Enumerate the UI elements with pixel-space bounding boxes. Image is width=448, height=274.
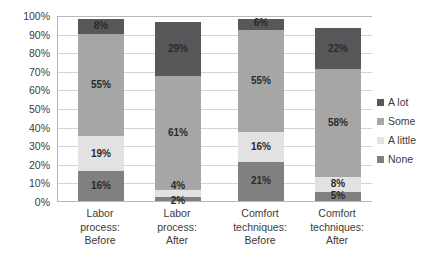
plot-area: 16%19%55%8%2%4%61%29%21%16%55%6%5%8%58%2… <box>57 16 372 202</box>
bar-segment-value-label: 29% <box>168 44 188 54</box>
legend-item-label: None <box>388 154 413 165</box>
bar-segment-value-label: 16% <box>91 181 111 191</box>
y-axis: 100%90%80%70%60%50%40%30%20%10%0% <box>2 16 54 202</box>
bar-group: 16%19%55%8%2%4%61%29%21%16%55%6%5%8%58%2… <box>58 16 372 201</box>
category-label-line: techniques: <box>223 221 297 235</box>
bar-segment: 6% <box>238 19 284 30</box>
bar-segment: 21% <box>238 162 284 201</box>
legend-swatch-icon <box>377 99 384 106</box>
bar-stack: 2%4%61%29% <box>155 15 201 201</box>
bar-segment-value-label: 55% <box>91 80 111 90</box>
y-axis-tick-label: 70% <box>29 67 50 77</box>
bar-segment: 16% <box>78 171 124 201</box>
bar-segment: 55% <box>238 30 284 132</box>
x-axis-category-labels: Laborprocess:BeforeLaborprocess:AfterCom… <box>57 207 372 269</box>
category-label-line: techniques: <box>300 221 374 235</box>
bar-segment: 19% <box>78 136 124 171</box>
bar-segment: 29% <box>155 22 201 76</box>
y-axis-tick-label: 10% <box>29 178 50 188</box>
legend-item-label: Some <box>388 116 415 127</box>
bar-segment-value-label: 5% <box>331 191 345 201</box>
bar-segment: 16% <box>238 132 284 162</box>
bar-segment-value-label: 61% <box>168 128 188 138</box>
chart-legend: A lotSomeA littleNone <box>377 93 445 169</box>
legend-item[interactable]: A little <box>377 131 445 150</box>
category-label-line: Comfort <box>223 207 297 221</box>
bar-segment-value-label: 16% <box>251 142 271 152</box>
y-axis-tick-label: 40% <box>29 123 50 133</box>
bar-segment: 5% <box>315 192 361 201</box>
legend-swatch-icon <box>377 156 384 163</box>
bar-segment-value-label: 2% <box>171 196 185 206</box>
bar-segment: 2% <box>155 197 201 201</box>
category-label-line: Comfort <box>300 207 374 221</box>
x-axis-category-label: Laborprocess:Before <box>63 207 137 248</box>
bar-segment-value-label: 21% <box>251 176 271 186</box>
bar-segment: 61% <box>155 76 201 189</box>
y-axis-tick-label: 20% <box>29 160 50 170</box>
category-label-line: After <box>140 234 214 248</box>
x-axis-category-label: Comforttechniques:After <box>300 207 374 248</box>
bar-segment: 58% <box>315 69 361 177</box>
bar-segment: 8% <box>78 19 124 34</box>
legend-item[interactable]: Some <box>377 112 445 131</box>
legend-item[interactable]: A lot <box>377 93 445 112</box>
y-axis-tick-label: 50% <box>29 104 50 114</box>
y-axis-tick-label: 100% <box>23 11 50 21</box>
category-label-line: Before <box>223 234 297 248</box>
bar-segment-value-label: 8% <box>331 179 345 189</box>
y-axis-tick-label: 90% <box>29 30 50 40</box>
x-axis-category-label: Comforttechniques:Before <box>223 207 297 248</box>
category-label-line: process: <box>140 221 214 235</box>
bar-stack: 21%16%55%6% <box>238 15 284 201</box>
bar-segment-value-label: 4% <box>171 181 185 191</box>
bar-stack: 16%19%55%8% <box>78 15 124 201</box>
bar-segment-value-label: 6% <box>254 18 268 28</box>
y-axis-tick-label: 0% <box>35 197 50 207</box>
category-label-line: Labor <box>140 207 214 221</box>
x-axis-category-label: Laborprocess:After <box>140 207 214 248</box>
bar-stack: 5%8%58%22% <box>315 15 361 201</box>
category-label-line: process: <box>63 221 137 235</box>
bar-segment-value-label: 22% <box>328 44 348 54</box>
legend-item[interactable]: None <box>377 150 445 169</box>
y-axis-tick-label: 60% <box>29 85 50 95</box>
bar-segment-value-label: 55% <box>251 76 271 86</box>
stacked-bar-chart: 100%90%80%70%60%50%40%30%20%10%0% 16%19%… <box>0 0 448 274</box>
category-label-line: After <box>300 234 374 248</box>
legend-item-label: A lot <box>388 97 408 108</box>
bar-segment-value-label: 8% <box>94 21 108 31</box>
category-label-line: Before <box>63 234 137 248</box>
legend-swatch-icon <box>377 118 384 125</box>
bar-segment-value-label: 58% <box>328 118 348 128</box>
legend-item-label: A little <box>388 135 416 146</box>
y-axis-tick-label: 30% <box>29 141 50 151</box>
bar-segment-value-label: 19% <box>91 149 111 159</box>
legend-swatch-icon <box>377 137 384 144</box>
category-label-line: Labor <box>63 207 137 221</box>
bar-segment: 22% <box>315 28 361 69</box>
y-axis-tick-label: 80% <box>29 48 50 58</box>
bar-segment: 55% <box>78 34 124 136</box>
